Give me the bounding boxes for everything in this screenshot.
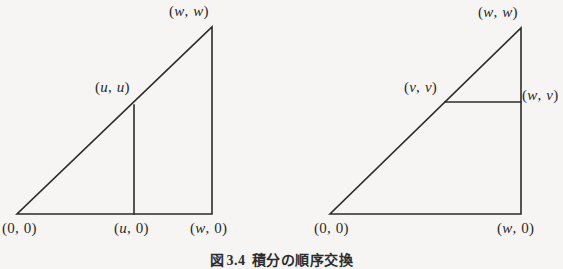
- coord-x: w: [174, 3, 184, 19]
- left-label-cut-top-uu: (u, u): [95, 80, 130, 95]
- comma: ,: [493, 4, 498, 20]
- right-label-base-right-w0: (w, 0): [497, 221, 534, 236]
- coord-y: 0: [521, 220, 529, 236]
- left-label-apex-ww: (w, w): [169, 4, 209, 19]
- caption-prefix: 図: [210, 253, 225, 268]
- right-triangle-outline: [330, 28, 521, 214]
- comma: ,: [512, 220, 517, 236]
- coord-y: w: [193, 3, 203, 19]
- paren-close: ): [222, 220, 227, 236]
- right-label-cut-left-vv: (v, v): [404, 80, 437, 95]
- comma: ,: [184, 3, 189, 19]
- coord-x: 0: [319, 220, 327, 236]
- comma: ,: [205, 220, 210, 236]
- coord-x: w: [502, 220, 512, 236]
- paren-close: ): [204, 3, 209, 19]
- coord-y: 0: [136, 220, 144, 236]
- coord-x: 0: [7, 220, 15, 236]
- left-label-origin-00: (0, 0): [2, 221, 37, 236]
- right-label-origin-00: (0, 0): [314, 221, 349, 236]
- paren-close: ): [125, 79, 130, 95]
- comma: ,: [15, 220, 20, 236]
- paren-close: ): [344, 220, 349, 236]
- comma: ,: [416, 79, 421, 95]
- paren-close: ): [144, 220, 149, 236]
- paren-close: ): [32, 220, 37, 236]
- coord-x: w: [195, 220, 205, 236]
- coord-x: u: [100, 79, 108, 95]
- paren-close: ): [513, 4, 518, 20]
- paren-close: ): [553, 87, 558, 103]
- coord-y: u: [117, 79, 125, 95]
- figure-caption: 図3.4積分の順序交換: [0, 249, 563, 269]
- right-label-cut-right-wv: (w, v): [522, 88, 558, 103]
- left-triangle-outline: [17, 27, 212, 214]
- coord-y: 0: [24, 220, 32, 236]
- caption-text: 積分の順序交換: [252, 253, 354, 268]
- left-label-cut-bottom-u0: (u, 0): [114, 221, 149, 236]
- paren-close: ): [529, 220, 534, 236]
- caption-number: 3.4: [225, 253, 252, 268]
- comma: ,: [327, 220, 332, 236]
- coord-x: u: [119, 220, 127, 236]
- comma: ,: [537, 87, 542, 103]
- coord-x: w: [483, 4, 493, 20]
- paren-close: ): [432, 79, 437, 95]
- left-label-base-right-w0: (w, 0): [190, 221, 227, 236]
- coord-y: w: [502, 4, 512, 20]
- comma: ,: [127, 220, 132, 236]
- comma: ,: [108, 79, 113, 95]
- right-label-apex-ww: (w, w): [478, 5, 518, 20]
- coord-y: 0: [336, 220, 344, 236]
- coord-y: v: [425, 79, 432, 95]
- coord-y: 0: [214, 220, 222, 236]
- coord-x: w: [527, 87, 537, 103]
